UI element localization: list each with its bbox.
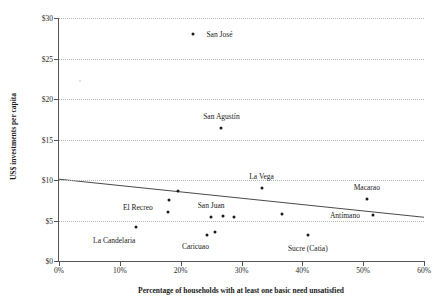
x-axis-tick-label: 0%	[54, 266, 64, 275]
y-axis-tick	[54, 140, 59, 141]
data-point-label: El Recreo	[123, 202, 153, 211]
y-axis-tick	[54, 221, 59, 222]
y-axis-tick-label: $20	[42, 95, 53, 104]
x-axis-tick-label: 20%	[174, 266, 188, 275]
y-axis-tick	[54, 99, 59, 100]
data-point[interactable]	[192, 33, 195, 36]
data-point-label: La Candelaria	[93, 235, 135, 244]
x-axis-tick-label: 50%	[356, 266, 370, 275]
y-axis-tick-label: $5	[46, 216, 54, 225]
y-axis-tick	[54, 59, 59, 60]
y-axis-tick	[54, 180, 59, 181]
data-point[interactable]	[306, 234, 309, 237]
data-point[interactable]	[210, 216, 213, 219]
data-point-label: Antímano	[330, 210, 360, 219]
data-point[interactable]	[280, 213, 283, 216]
data-point[interactable]	[365, 197, 368, 200]
data-point-label: San Juan	[198, 201, 225, 210]
gridline-y	[59, 140, 424, 141]
data-point[interactable]	[79, 80, 81, 82]
gridline-y	[59, 99, 424, 100]
data-point[interactable]	[206, 234, 209, 237]
data-point[interactable]	[220, 127, 223, 130]
data-point[interactable]	[232, 216, 235, 219]
gridline-y	[59, 221, 424, 222]
data-point[interactable]	[135, 225, 138, 228]
x-axis-tick-label: 60%	[417, 266, 431, 275]
y-axis-title: US$ investments per capita	[9, 72, 18, 202]
y-axis-tick-label: $10	[42, 176, 53, 185]
gridline-y	[59, 18, 424, 19]
data-point[interactable]	[221, 214, 224, 217]
y-axis-tick-label: $15	[42, 135, 53, 144]
y-axis-tick-label: $30	[42, 14, 53, 23]
scatter-chart-figure: $0$5$10$15$20$25$300%10%20%30%40%50%60%S…	[0, 0, 443, 305]
data-point-label: Macarao	[354, 182, 380, 191]
data-point[interactable]	[177, 190, 180, 193]
x-axis-title: Percentage of households with at least o…	[58, 286, 424, 295]
data-point[interactable]	[167, 199, 170, 202]
data-point-label: San Agustín	[203, 112, 239, 121]
gridline-y	[59, 180, 424, 181]
y-axis-tick-label: $25	[42, 54, 53, 63]
x-axis-tick-label: 30%	[235, 266, 249, 275]
x-axis-tick-label: 10%	[113, 266, 127, 275]
data-point-label: San José	[206, 29, 232, 38]
plot-area: $0$5$10$15$20$25$300%10%20%30%40%50%60%S…	[58, 18, 424, 262]
data-point-label: La Vega	[249, 172, 274, 181]
gridline-y	[59, 59, 424, 60]
data-point[interactable]	[166, 210, 169, 213]
data-point-label: Caricuao	[182, 242, 209, 251]
data-point[interactable]	[213, 230, 216, 233]
y-axis-tick-label: $0	[46, 257, 54, 266]
data-point-label: Sucre (Catia)	[288, 244, 328, 253]
y-axis-tick	[54, 18, 59, 19]
x-axis-tick-label: 40%	[295, 266, 309, 275]
data-point[interactable]	[260, 187, 263, 190]
data-point[interactable]	[371, 213, 374, 216]
